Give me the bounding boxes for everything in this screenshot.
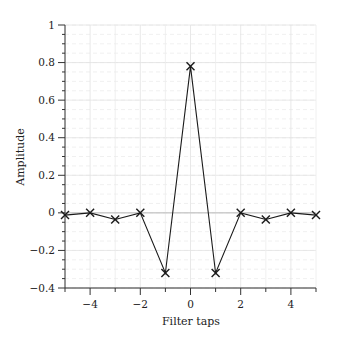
chart: −0.4−0.200.20.40.60.81−4−2024 Filter tap… xyxy=(0,0,341,341)
x-axis-label: Filter taps xyxy=(162,315,220,328)
y-tick-label: 0.2 xyxy=(38,169,55,181)
y-tick-label: 1 xyxy=(48,19,55,31)
x-tick-label: 0 xyxy=(187,298,194,310)
y-tick-label: 0.6 xyxy=(38,94,55,106)
y-tick-label: −0.2 xyxy=(30,244,56,256)
axes xyxy=(58,25,316,295)
grid xyxy=(65,25,316,288)
x-tick-label: −4 xyxy=(82,298,98,310)
y-tick-label: 0.4 xyxy=(38,131,55,143)
y-tick-label: 0.8 xyxy=(38,56,55,68)
x-tick-label: −2 xyxy=(133,298,148,310)
x-tick-label: 4 xyxy=(288,298,295,310)
y-axis-label: Amplitude xyxy=(14,128,27,187)
y-tick-label: −0.4 xyxy=(30,282,56,294)
y-tick-label: 0 xyxy=(48,206,55,218)
x-tick-label: 2 xyxy=(237,298,244,310)
